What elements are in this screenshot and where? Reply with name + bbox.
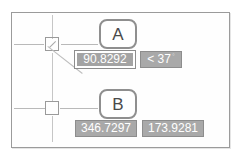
crosshair-vertical-top-a	[52, 15, 53, 39]
marker-badge-b: B	[99, 89, 137, 119]
crosshair-horizontal-left-a	[14, 44, 44, 45]
crosshair-horizontal-left-b	[14, 108, 45, 109]
drawing-area: A B 90.8292 < 37 ° 346.7297 173.9281	[11, 12, 230, 148]
marker-badge-a: A	[99, 19, 137, 49]
crosshair-horizontal-right-b	[60, 108, 98, 109]
distance-field[interactable]: 90.8292	[75, 51, 135, 68]
angle-field[interactable]: < 37 °	[140, 51, 182, 68]
distance-field-value: 90.8292	[83, 52, 126, 67]
crosshair-vertical-top-b	[52, 75, 53, 101]
angle-field-value: < 37	[147, 52, 171, 67]
pickbox-b[interactable]	[45, 101, 59, 115]
marker-badge-a-label: A	[112, 26, 123, 43]
crosshair-vertical-bottom-b	[52, 116, 53, 142]
dynamic-input-row-b: 346.7297 173.9281	[75, 120, 204, 137]
screenshot-root: A B 90.8292 < 37 ° 346.7297 173.9281	[0, 0, 241, 159]
y-coordinate-field[interactable]: 173.9281	[142, 120, 204, 137]
x-coordinate-field-value: 346.7297	[81, 121, 131, 136]
dynamic-input-row-a: 90.8292 < 37 °	[75, 51, 182, 68]
y-coordinate-field-value: 173.9281	[148, 121, 198, 136]
crosshair-horizontal-right-a	[61, 44, 98, 45]
x-coordinate-field[interactable]: 346.7297	[75, 120, 137, 137]
marker-badge-b-label: B	[112, 96, 123, 113]
degree-symbol-icon: °	[172, 53, 175, 60]
